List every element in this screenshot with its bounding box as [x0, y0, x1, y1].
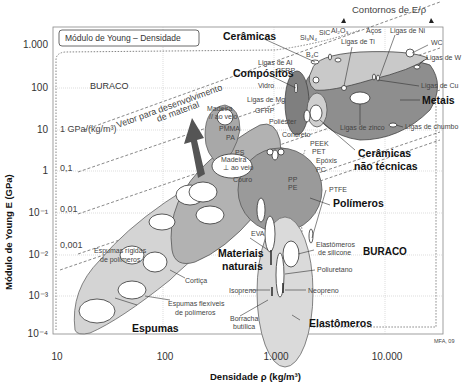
svg-text:10⁻²: 10⁻²	[29, 249, 49, 260]
bubble-gfrp	[304, 110, 310, 122]
svg-text:CFRP: CFRP	[276, 67, 295, 74]
bubble-foam-4	[189, 182, 217, 202]
svg-text:PMMA: PMMA	[219, 125, 240, 132]
bubble-ps	[257, 198, 265, 222]
chart-title: Módulo de Young – Densidade	[65, 33, 181, 43]
x-axis-title: Densidade ρ (kg/m³)	[210, 371, 301, 382]
svg-text:Ligas de Al: Ligas de Al	[258, 59, 293, 67]
bubble-espumas-rig-3	[196, 206, 224, 224]
svg-text:Poliéster: Poliéster	[269, 118, 297, 125]
svg-text:Vidro: Vidro	[258, 82, 274, 89]
label-materiais-2: naturais	[222, 260, 263, 272]
contour-01: 0,1	[60, 163, 73, 173]
svg-text:butílica: butílica	[233, 323, 255, 330]
bubble-espumas-flex-2	[118, 281, 146, 299]
label-nao-tecnicas-2: não técnicas	[354, 160, 418, 172]
bubble-pmma	[267, 149, 273, 155]
contours-label: Contornos de E/ρ	[352, 4, 427, 15]
svg-text:10: 10	[37, 124, 49, 135]
svg-text:1.000: 1.000	[263, 351, 288, 362]
svg-text:Epóxis: Epóxis	[316, 157, 338, 165]
label-materiais-1: Materiais	[218, 247, 264, 259]
y-axis-ticks: 1.000 100 10 1 10⁻¹ 10⁻² 10⁻³ 10⁻⁴	[23, 39, 49, 339]
svg-text:100: 100	[157, 351, 174, 362]
svg-text:GFRP: GFRP	[255, 107, 275, 114]
svg-text:1.000: 1.000	[23, 39, 48, 50]
bubble-zinco	[350, 92, 370, 104]
bubble-wc	[406, 49, 414, 57]
svg-text:1: 1	[42, 165, 48, 176]
svg-text:Ligas de chumbo: Ligas de chumbo	[405, 123, 458, 131]
label-ceramicas: Cerâmicas	[223, 30, 276, 42]
bubble-peek	[278, 149, 284, 155]
svg-text:Neopreno: Neopreno	[308, 287, 339, 295]
svg-text:PTFE: PTFE	[329, 186, 347, 193]
svg-text:de silicone: de silicone	[318, 249, 351, 256]
svg-text:Madeira: Madeira	[221, 156, 246, 163]
label-metais: Metais	[422, 94, 455, 106]
svg-text:10⁻¹: 10⁻¹	[29, 207, 49, 218]
svg-text:Couro: Couro	[233, 176, 252, 183]
svg-text:PA: PA	[226, 134, 235, 141]
svg-text:Borracha: Borracha	[230, 315, 259, 322]
svg-text:Espumas flexíveis: Espumas flexíveis	[168, 300, 225, 308]
svg-text:WC: WC	[431, 39, 443, 46]
bubble-al	[313, 77, 319, 83]
svg-text:de polímeros: de polímeros	[175, 309, 216, 317]
svg-text:SiC: SiC	[319, 29, 330, 36]
x-axis-ticks: 10 100 1.000 10.000	[51, 351, 402, 362]
svg-text:10⁻⁴: 10⁻⁴	[28, 328, 48, 339]
svg-text:Aços: Aços	[366, 27, 382, 35]
svg-text:de polímeros: de polímeros	[100, 256, 141, 264]
bubble-silicone	[283, 241, 299, 267]
contour-001: 0,01	[60, 204, 78, 214]
label-espumas: Espumas	[132, 322, 179, 334]
svg-text:EVA: EVA	[251, 230, 265, 237]
label-nao-tecnicas-1: Cerâmicas	[358, 147, 411, 159]
svg-text:Madeira: Madeira	[207, 105, 232, 112]
svg-text:Isopreno: Isopreno	[229, 287, 256, 295]
svg-text:PC: PC	[316, 166, 326, 173]
svg-text:Ligas de Ti: Ligas de Ti	[341, 38, 375, 46]
bubble-ti	[342, 86, 347, 91]
svg-text:Ligas de zinco: Ligas de zinco	[340, 124, 385, 132]
svg-text:MFA, 09: MFA, 09	[434, 338, 454, 344]
svg-text:10⁻³: 10⁻³	[29, 290, 49, 301]
svg-text:Cortiça: Cortiça	[185, 277, 207, 285]
svg-text:Concreto: Concreto	[282, 131, 311, 138]
svg-text:Ligas de W: Ligas de W	[426, 54, 461, 62]
svg-text:Si₃N₄: Si₃N₄	[300, 34, 317, 41]
svg-text:PE: PE	[288, 184, 298, 191]
bubble-cortica	[143, 252, 167, 272]
bubble-sic	[329, 54, 332, 60]
svg-text:PP: PP	[288, 176, 298, 183]
bubble-al2o3	[335, 58, 341, 62]
contour-0001: 0,001	[60, 240, 83, 250]
svg-text:10: 10	[51, 351, 63, 362]
bubble-ligas-w	[414, 65, 420, 69]
bubble-couro	[265, 216, 275, 252]
contour-arrow-right	[429, 18, 434, 23]
family-compositos	[285, 71, 309, 135]
bubble-chumbo	[389, 123, 397, 127]
bubble-espumas-rig-2	[149, 214, 175, 230]
svg-text:Elastômeros: Elastômeros	[316, 241, 355, 248]
svg-text:⊥ ao veio: ⊥ ao veio	[223, 164, 254, 171]
buraco-top-label: BURACO	[90, 81, 129, 91]
svg-text:Al₂O₃: Al₂O₃	[331, 27, 348, 34]
label-polimeros: Polímeros	[333, 197, 384, 209]
svg-text:Espumas rígidas: Espumas rígidas	[94, 247, 147, 255]
contour-1: 1 GPa/(kg/m³)	[60, 124, 117, 134]
svg-text:PEEK: PEEK	[310, 140, 329, 147]
bubble-espumas-flex-1	[79, 299, 115, 323]
svg-text:PS: PS	[235, 149, 245, 156]
svg-text:10.000: 10.000	[372, 351, 403, 362]
svg-text:Ligas de Mg: Ligas de Mg	[247, 96, 285, 104]
svg-text:PET: PET	[312, 148, 326, 155]
svg-text:Poliuretano: Poliuretano	[317, 266, 353, 273]
ashby-chart: Módulo de Young – Densidade Contornos de…	[0, 0, 469, 387]
svg-text:B₄C: B₄C	[306, 51, 319, 58]
svg-text:100: 100	[31, 82, 48, 93]
bubble-aco	[373, 74, 376, 80]
svg-text:Ligas de Cu: Ligas de Cu	[421, 82, 458, 90]
